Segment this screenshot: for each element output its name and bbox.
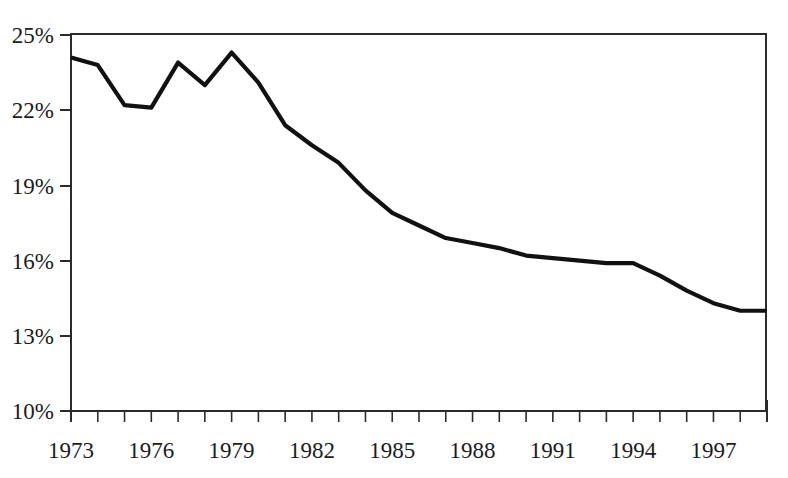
x-tick-label-1976: 1976 — [128, 438, 174, 463]
y-tick-label-16: 16% — [12, 249, 54, 274]
x-tick-label-1982: 1982 — [289, 438, 335, 463]
x-tick-labels: 197319761979198219851988199119941997 — [48, 438, 736, 463]
y-tick-label-10: 10% — [12, 399, 54, 424]
x-tick-label-1988: 1988 — [450, 438, 496, 463]
x-tick-label-1973: 1973 — [48, 438, 94, 463]
x-tick-label-1979: 1979 — [209, 438, 255, 463]
y-tick-labels: 25% 22% 19% 16% 13% 10% — [12, 23, 54, 424]
y-tick-label-25: 25% — [12, 23, 54, 48]
chart-frame — [71, 33, 767, 412]
y-tick-label-13: 13% — [12, 324, 54, 349]
y-tick-marks — [60, 35, 71, 411]
line-chart: 25% 22% 19% 16% 13% 10% 1973197619791982… — [0, 0, 788, 478]
x-tick-label-1985: 1985 — [369, 438, 415, 463]
y-tick-label-19: 19% — [12, 174, 54, 199]
x-tick-label-1991: 1991 — [530, 438, 576, 463]
y-tick-label-22: 22% — [12, 98, 54, 123]
data-line-series-1 — [71, 53, 767, 311]
x-tick-label-1997: 1997 — [690, 438, 736, 463]
chart-container: 25% 22% 19% 16% 13% 10% 1973197619791982… — [0, 0, 788, 478]
x-tick-label-1994: 1994 — [610, 438, 657, 463]
